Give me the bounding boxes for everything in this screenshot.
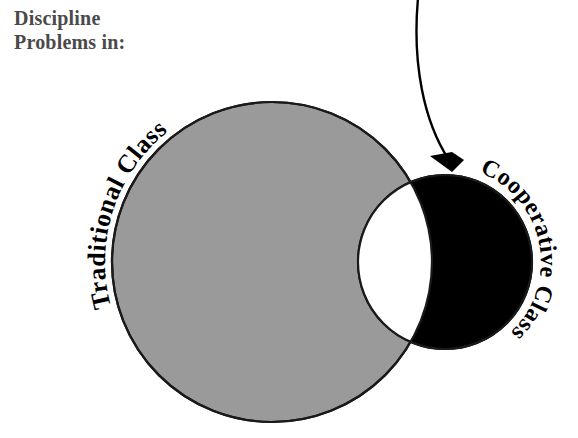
venn-diagram: Traditional Class Cooperative Class [0, 0, 578, 438]
diagram-canvas: Traditional Class Cooperative Class Disc… [0, 0, 578, 438]
page-title: Discipline Problems in: [14, 6, 125, 55]
title-line-1: Discipline [14, 6, 125, 30]
title-line-2: Problems in: [14, 30, 125, 54]
pointer-arrow [416, 0, 464, 172]
